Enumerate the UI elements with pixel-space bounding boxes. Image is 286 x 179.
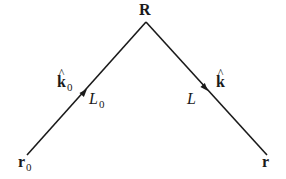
outgoing-length-text: L: [187, 90, 196, 107]
incoming-direction-label-k0-hat: ^k0: [57, 74, 72, 90]
hat-accent-icon: ^: [218, 67, 224, 79]
incoming-length-subscript: 0: [99, 98, 105, 110]
incoming-ray-line: [27, 22, 146, 155]
hat-accent-icon: ^: [59, 67, 65, 79]
outgoing-direction-label-k-hat: ^k: [216, 74, 225, 90]
outgoing-length-label-L: L: [187, 91, 196, 107]
start-label-text: r: [18, 153, 25, 170]
start-label-subscript: 0: [26, 161, 32, 173]
apex-label-text: R: [139, 1, 151, 18]
end-label-r: r: [262, 154, 269, 170]
start-label-r0: r0: [18, 154, 32, 170]
end-label-text: r: [262, 153, 269, 170]
incoming-length-label-L0: L0: [89, 91, 104, 107]
incoming-length-text: L: [89, 90, 98, 107]
incoming-direction-subscript: 0: [67, 81, 73, 93]
apex-label-R: R: [139, 2, 151, 18]
ray-path-diagram: [0, 0, 286, 179]
